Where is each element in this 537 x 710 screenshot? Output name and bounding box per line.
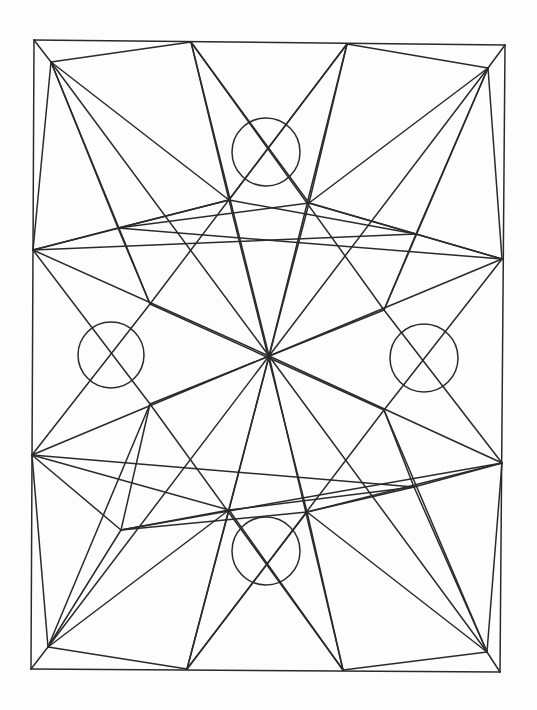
line-segment — [191, 42, 384, 310]
line-segment — [384, 410, 487, 652]
line-segment — [48, 404, 150, 647]
line-segment — [118, 200, 229, 228]
line-segment — [32, 455, 48, 647]
line-segment — [343, 652, 487, 670]
line-segments — [31, 40, 505, 672]
line-segment — [269, 356, 502, 463]
line-segment — [32, 455, 121, 530]
line-segment — [500, 45, 505, 672]
line-segment — [51, 42, 191, 62]
line-segment — [31, 647, 48, 669]
line-segment — [488, 68, 502, 259]
line-segment — [31, 669, 500, 672]
line-segment — [187, 410, 384, 669]
line-segment — [48, 356, 269, 647]
bottom-circle — [232, 517, 300, 585]
line-segment — [118, 203, 309, 228]
star-mandala-drawing — [0, 0, 537, 710]
line-segment — [121, 404, 150, 530]
line-segment — [33, 62, 51, 250]
line-segment — [488, 45, 505, 68]
line-segment — [487, 652, 500, 672]
line-segment — [150, 44, 347, 304]
line-segment — [384, 234, 416, 310]
line-segment — [48, 530, 121, 647]
drawing-canvas — [0, 0, 537, 710]
line-segment — [33, 250, 269, 356]
line-segment — [34, 40, 505, 45]
line-segment — [229, 487, 414, 510]
line-segment — [31, 40, 34, 669]
line-segment — [229, 200, 416, 234]
line-segment — [347, 44, 488, 68]
line-segment — [34, 40, 51, 62]
line-segment — [118, 228, 150, 304]
line-segment — [48, 647, 187, 669]
line-segment — [51, 62, 229, 200]
line-segment — [384, 410, 414, 487]
line-segment — [48, 510, 229, 647]
line-segment — [150, 310, 384, 404]
